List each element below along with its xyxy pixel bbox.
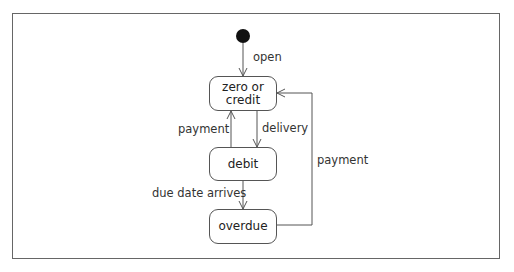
state-label-line1: zero or [222, 81, 264, 94]
state-debit: debit [209, 147, 277, 181]
state-label: debit [228, 158, 259, 171]
transition-label-due-date: due date arrives [152, 186, 246, 200]
state-label: overdue [218, 220, 267, 233]
transition-label-payment-overdue: payment [317, 153, 368, 167]
state-overdue: overdue [209, 209, 277, 244]
transition-label-delivery: delivery [262, 121, 308, 135]
state-zero-or-credit: zero or credit [209, 76, 277, 111]
initial-state-dot [236, 29, 250, 43]
transition-label-payment-debit: payment [178, 122, 229, 136]
transition-label-open: open [253, 50, 282, 64]
state-label-line2: credit [226, 94, 260, 107]
